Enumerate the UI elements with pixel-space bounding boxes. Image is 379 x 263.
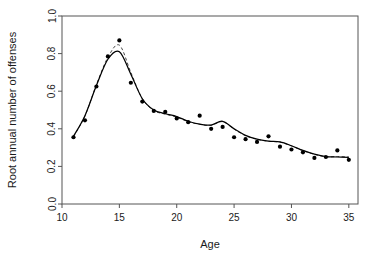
x-tick-label: 35 bbox=[343, 212, 355, 223]
data-point bbox=[186, 120, 190, 124]
x-tick-label: 20 bbox=[171, 212, 183, 223]
data-point bbox=[255, 140, 259, 144]
offenses-by-age-scatter-plot: 101520253035 0.00.20.40.60.81.0 Age Root… bbox=[0, 0, 379, 263]
data-point bbox=[324, 155, 328, 159]
data-point bbox=[301, 150, 305, 154]
data-point bbox=[266, 134, 270, 138]
x-axis-title: Age bbox=[200, 238, 220, 250]
y-tick-label: 1.0 bbox=[47, 9, 58, 23]
data-point bbox=[243, 137, 247, 141]
y-tick-label: 0.8 bbox=[47, 46, 58, 60]
x-tick-label: 25 bbox=[229, 212, 241, 223]
data-point bbox=[152, 109, 156, 113]
y-axis-title: Root annual number of offenses bbox=[6, 31, 18, 188]
y-tick-label: 0.4 bbox=[47, 121, 58, 135]
data-point bbox=[347, 158, 351, 162]
data-point bbox=[71, 135, 75, 139]
data-point bbox=[198, 114, 202, 118]
data-point bbox=[140, 99, 144, 103]
y-tick-label: 0.2 bbox=[47, 159, 58, 173]
x-tick-label: 30 bbox=[286, 212, 298, 223]
y-tick-label: 0.0 bbox=[47, 197, 58, 211]
data-point bbox=[209, 127, 213, 131]
x-tick-label: 10 bbox=[56, 212, 68, 223]
data-point bbox=[289, 147, 293, 151]
data-point bbox=[94, 84, 98, 88]
data-point bbox=[83, 118, 87, 122]
data-point bbox=[106, 54, 110, 58]
data-point bbox=[335, 148, 339, 152]
data-point bbox=[278, 145, 282, 149]
data-point bbox=[312, 156, 316, 160]
chart-figure: 101520253035 0.00.20.40.60.81.0 Age Root… bbox=[0, 0, 379, 263]
data-point bbox=[163, 110, 167, 114]
x-tick-label: 15 bbox=[114, 212, 126, 223]
data-point bbox=[129, 81, 133, 85]
data-point bbox=[175, 116, 179, 120]
y-tick-label: 0.6 bbox=[47, 84, 58, 98]
data-point bbox=[117, 38, 121, 42]
data-point bbox=[232, 135, 236, 139]
data-point bbox=[221, 125, 225, 129]
